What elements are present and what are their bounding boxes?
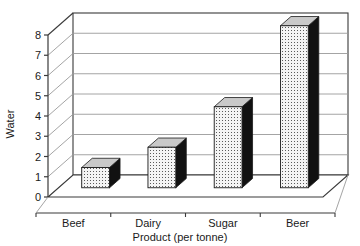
bar-front-face [148,147,176,188]
y-tick-label: 5 [35,90,41,102]
x-tick-label-beef: Beef [62,217,86,229]
y-tick-label: 4 [35,110,41,122]
y-axis-tick-labels: 012345678 [35,29,41,203]
y-tick-label: 0 [35,191,41,203]
x-tick-label-sugar: Sugar [208,217,238,229]
y-tick-label: 6 [35,70,41,82]
bar-chart-3d: 012345678 BeefDairySugarBeer Product (pe… [0,0,360,246]
bar-front-face [82,168,110,188]
bar-sugar[interactable] [214,98,252,188]
bar-side-face [242,98,253,188]
y-tick-label: 8 [35,29,41,41]
bar-front-face [280,26,308,188]
x-tick-label-beer: Beer [286,217,310,229]
y-tick-label: 1 [35,171,41,183]
x-tick-label-dairy: Dairy [135,217,161,229]
chart-container: 012345678 BeefDairySugarBeer Product (pe… [0,0,360,246]
bar-beer[interactable] [280,17,318,188]
x-axis-title: Product (per tonne) [133,231,228,243]
bar-beef[interactable] [82,158,120,187]
y-tick-label: 7 [35,49,41,61]
bar-dairy[interactable] [148,138,186,188]
bar-side-face [308,17,319,188]
bar-front-face [214,107,242,188]
y-tick-label: 2 [35,151,41,163]
y-axis-title: Water [4,109,16,138]
y-tick-label: 3 [35,130,41,142]
